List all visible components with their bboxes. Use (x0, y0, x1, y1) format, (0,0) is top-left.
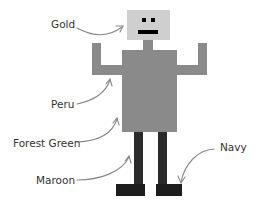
label-gold: Gold (51, 18, 75, 30)
label-maroon: Maroon (36, 174, 75, 186)
label-navy: Navy (220, 141, 247, 153)
arrows (0, 0, 257, 202)
label-peru: Peru (51, 98, 74, 110)
label-forest-green: Forest Green (13, 137, 80, 149)
